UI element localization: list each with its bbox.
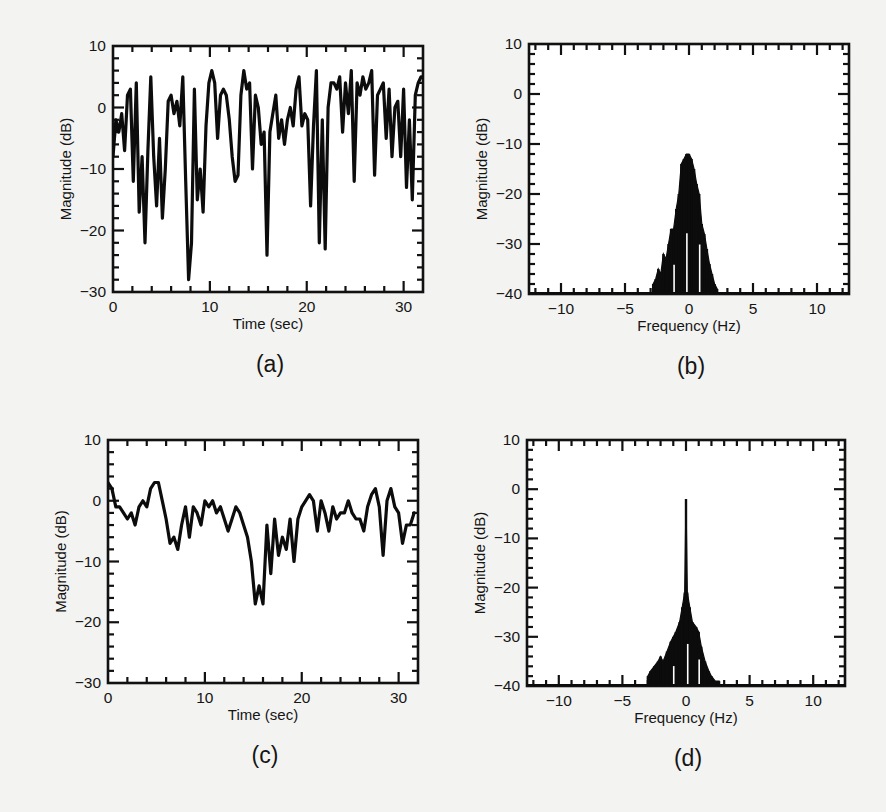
y-tick-label: −10 (494, 529, 521, 546)
y-axis-title: Magnitude (dB) (52, 510, 69, 613)
y-tick-label: −20 (75, 613, 102, 630)
y-tick-label: −20 (494, 579, 521, 596)
x-tick-label: 0 (109, 298, 118, 315)
x-tick-label: 10 (808, 300, 826, 317)
x-axis-title: Frequency (Hz) (637, 317, 740, 334)
x-axis-title: Time (sec) (228, 706, 298, 723)
x-tick-label: −5 (614, 692, 632, 709)
chart-panel-b: −40−30−20−10010−10−50510Frequency (Hz)Ma… (473, 35, 849, 379)
y-axis-title: Magnitude (dB) (471, 512, 488, 615)
y-axis-title: Magnitude (dB) (57, 118, 74, 221)
panel-label: (b) (677, 353, 705, 379)
x-tick-label: 10 (201, 298, 219, 315)
y-tick-label: 0 (513, 85, 522, 102)
x-tick-label: 0 (682, 692, 691, 709)
x-tick-label: −10 (546, 692, 573, 709)
y-tick-label: −30 (75, 674, 102, 691)
y-tick-label: −20 (80, 222, 107, 239)
y-tick-label: −10 (80, 160, 107, 177)
x-tick-label: 20 (293, 689, 311, 706)
y-tick-label: −30 (80, 283, 107, 300)
y-tick-label: 10 (503, 431, 521, 448)
y-tick-label: −40 (496, 285, 523, 302)
panel-label: (d) (674, 745, 702, 771)
y-tick-label: 10 (84, 431, 102, 448)
chart-panel-d: −40−30−20−10010−10−50510Frequency (Hz)Ma… (471, 431, 845, 771)
y-tick-label: −10 (75, 553, 102, 570)
y-tick-label: 0 (511, 480, 520, 497)
x-tick-label: −5 (616, 300, 634, 317)
y-tick-label: −20 (496, 185, 523, 202)
x-tick-label: 0 (104, 689, 113, 706)
x-tick-label: 30 (390, 689, 408, 706)
x-tick-label: 20 (298, 298, 316, 315)
y-tick-label: −30 (494, 628, 521, 645)
y-tick-label: −40 (494, 677, 521, 694)
x-tick-label: 30 (395, 298, 413, 315)
y-tick-label: 10 (505, 35, 523, 52)
x-tick-label: 5 (745, 692, 754, 709)
y-tick-label: 10 (89, 37, 107, 54)
x-axis-title: Time (sec) (233, 315, 303, 332)
x-tick-label: 10 (196, 689, 214, 706)
chart-panel-a: −30−20−100100102030Time (sec)Magnitude (… (57, 37, 423, 377)
y-tick-label: −30 (496, 235, 523, 252)
plot-frame (108, 440, 418, 683)
panel-label: (c) (252, 742, 279, 768)
y-tick-label: −10 (496, 135, 523, 152)
x-tick-label: 5 (749, 300, 758, 317)
y-axis-title: Magnitude (dB) (473, 118, 490, 221)
figure-canvas: −30−20−100100102030Time (sec)Magnitude (… (0, 0, 886, 812)
chart-panel-c: −30−20−100100102030Time (sec)Magnitude (… (52, 431, 418, 768)
x-tick-label: −10 (548, 300, 575, 317)
figure-container: −30−20−100100102030Time (sec)Magnitude (… (0, 0, 886, 812)
x-axis-title: Frequency (Hz) (634, 709, 737, 726)
y-tick-label: 0 (97, 99, 106, 116)
y-tick-label: 0 (92, 492, 101, 509)
x-tick-label: 0 (685, 300, 694, 317)
panel-label: (a) (256, 351, 284, 377)
x-tick-label: 10 (805, 692, 823, 709)
